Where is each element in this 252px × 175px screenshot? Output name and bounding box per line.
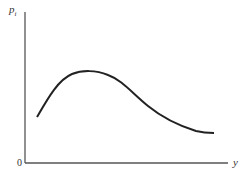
origin-label: 0 <box>17 157 22 168</box>
x-axis-label: y <box>233 156 238 168</box>
y-axis-label: pi <box>9 3 16 18</box>
chart-canvas <box>0 0 252 175</box>
density-curve <box>37 71 214 133</box>
